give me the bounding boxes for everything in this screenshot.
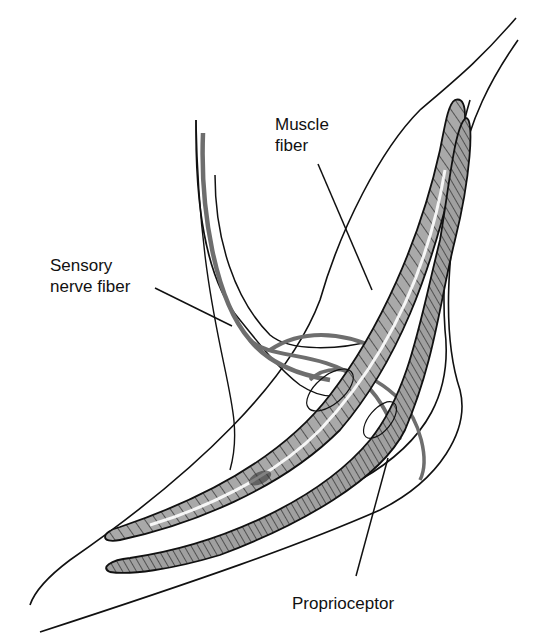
label-sensory-nerve-fiber-line1: Sensory (50, 255, 130, 276)
label-muscle-fiber-line1: Muscle (275, 114, 329, 135)
leader-line-muscle-fiber (318, 164, 372, 290)
diagram-illustration (0, 0, 541, 642)
label-muscle-fiber: Muscle fiber (275, 114, 329, 156)
capsule-outline (30, 18, 518, 632)
label-proprioceptor-line1: Proprioceptor (292, 593, 394, 614)
label-muscle-fiber-line2: fiber (275, 135, 329, 156)
leader-line-sensory-nerve-fiber (155, 288, 232, 326)
muscle-fiber-bundle (105, 100, 470, 573)
label-proprioceptor: Proprioceptor (292, 593, 394, 614)
muscle-spindle-diagram: Muscle fiber Sensory nerve fiber Proprio… (0, 0, 541, 642)
label-sensory-nerve-fiber-line2: nerve fiber (50, 276, 130, 297)
label-sensory-nerve-fiber: Sensory nerve fiber (50, 255, 130, 297)
